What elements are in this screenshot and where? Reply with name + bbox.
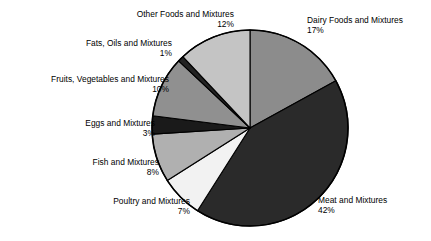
slice-label-name: Fish and Mixtures [52, 157, 159, 167]
slice-label-percent: 1% [24, 48, 172, 58]
slice-label-poultry: Poultry and Mixtures 7% [68, 196, 190, 217]
slice-label-percent: 7% [68, 206, 190, 216]
slice-label-fish: Fish and Mixtures 8% [52, 157, 159, 178]
slice-label-percent: 8% [52, 167, 159, 177]
slice-label-name: Fats, Oils and Mixtures [24, 38, 172, 48]
slice-label-percent: 10% [3, 84, 169, 94]
slice-label-percent: 3% [30, 128, 155, 138]
slice-label-percent: 17% [307, 25, 427, 35]
pie-chart: Other Foods and Mixtures 12% Fats, Oils … [0, 0, 431, 241]
slice-label-fruits-vegetables: Fruits, Vegetables and Mixtures 10% [3, 74, 169, 95]
slice-label-percent: 12% [109, 19, 234, 29]
slice-label-other-foods: Other Foods and Mixtures 12% [109, 9, 234, 30]
slice-label-name: Poultry and Mixtures [68, 196, 190, 206]
slice-label-eggs: Eggs and Mixtures 3% [30, 118, 155, 139]
slice-label-name: Meat and Mixtures [318, 195, 428, 205]
slice-label-meat: Meat and Mixtures 42% [318, 195, 428, 216]
slice-label-fats-oils: Fats, Oils and Mixtures 1% [24, 38, 172, 59]
slice-label-name: Fruits, Vegetables and Mixtures [3, 74, 169, 84]
slice-label-dairy: Dairy Foods and Mixtures 17% [307, 15, 427, 36]
slice-label-name: Dairy Foods and Mixtures [307, 15, 427, 25]
slice-label-name: Other Foods and Mixtures [109, 9, 234, 19]
slice-label-name: Eggs and Mixtures [30, 118, 155, 128]
slice-label-percent: 42% [318, 205, 428, 215]
